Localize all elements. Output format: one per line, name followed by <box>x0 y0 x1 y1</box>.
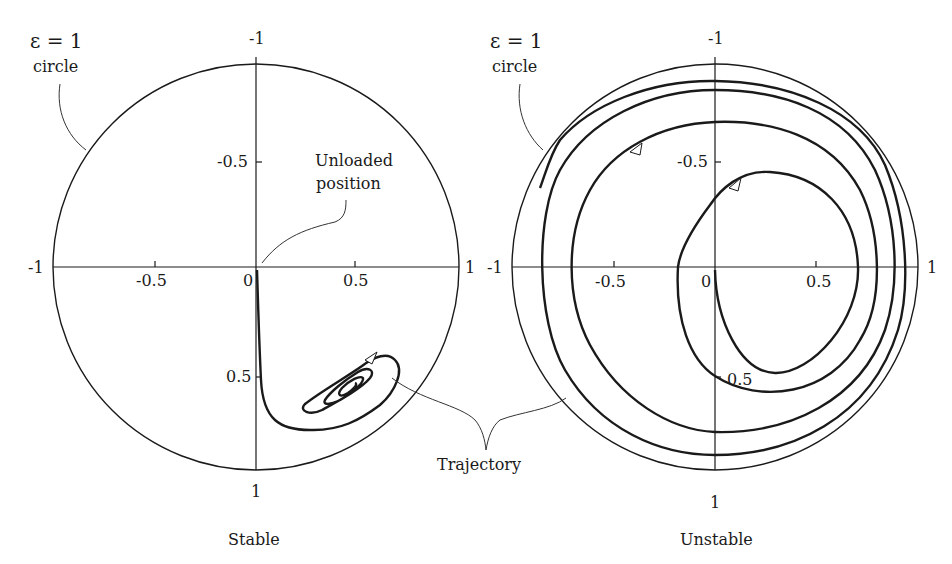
circle-label-right: circle <box>492 57 537 76</box>
trajectory-callout: Trajectory <box>392 378 566 474</box>
tick-label-left: -1 <box>28 258 44 277</box>
trajectory-stable <box>257 270 399 430</box>
epsilon-label-right: ε = 1 <box>490 29 543 53</box>
unloaded-label-line1: Unloaded <box>315 151 393 170</box>
tick-label-x-neg-half: -0.5 <box>595 272 626 291</box>
tick-label-x-pos-half: 0.5 <box>806 272 831 291</box>
tick-label-x-origin: 0 <box>701 272 711 291</box>
tick-label-x-neg-half: -0.5 <box>136 271 167 290</box>
tick-label-right: 1 <box>465 258 475 277</box>
unloaded-label-line2: position <box>316 174 381 193</box>
tick-label-bottom: 1 <box>251 482 261 501</box>
epsilon-label-left: ε = 1 <box>30 29 83 53</box>
tick-label-y-neg-half: -0.5 <box>677 152 708 171</box>
tick-label-top: -1 <box>249 29 265 48</box>
trajectory-label: Trajectory <box>437 455 521 474</box>
unstable-panel: ε = 1 circle -1 1 -1 1 -0.5 0 0.5 -0.5 0… <box>487 29 937 549</box>
trajectory-unstable <box>540 81 905 455</box>
orbit-diagram: ε = 1 circle Unloaded position -1 1 -1 1… <box>0 0 952 564</box>
tick-label-x-origin: 0 <box>243 271 253 290</box>
circle-label-left: circle <box>33 57 78 76</box>
tick-label-x-pos-half: 0.5 <box>343 271 368 290</box>
caption-stable: Stable <box>228 530 280 549</box>
trajectory-leader-right <box>486 398 566 450</box>
caption-unstable: Unstable <box>680 530 753 549</box>
tick-label-right: 1 <box>927 258 937 277</box>
tick-label-y-pos-half: 0.5 <box>727 370 752 389</box>
tick-label-top: -1 <box>708 29 724 48</box>
circle-leader-right <box>519 84 543 150</box>
tick-label-y-pos-half: 0.5 <box>226 367 251 386</box>
unloaded-leader <box>262 200 346 263</box>
tick-label-y-neg-half: -0.5 <box>217 152 248 171</box>
tick-label-bottom: 1 <box>710 493 720 512</box>
circle-leader-left <box>59 84 86 150</box>
stable-panel: ε = 1 circle Unloaded position -1 1 -1 1… <box>28 29 475 549</box>
trajectory-leader-left <box>392 378 486 450</box>
tick-label-left: -1 <box>487 258 503 277</box>
